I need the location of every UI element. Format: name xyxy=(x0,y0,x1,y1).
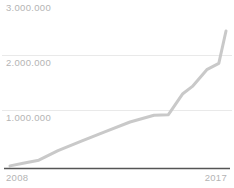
x-axis-tick-end: 2017 xyxy=(205,172,227,183)
x-axis-tick-start: 2008 xyxy=(6,172,28,183)
y-axis-tick-3000000: 3.000.000 xyxy=(6,2,51,13)
line-chart: 3.000.000 2.000.000 1.000.000 2008 2017 xyxy=(0,0,234,188)
y-axis-tick-2000000: 2.000.000 xyxy=(6,57,51,68)
series-line-1 xyxy=(10,31,226,166)
y-axis-tick-1000000: 1.000.000 xyxy=(6,112,51,123)
chart-plot-area xyxy=(0,0,234,188)
